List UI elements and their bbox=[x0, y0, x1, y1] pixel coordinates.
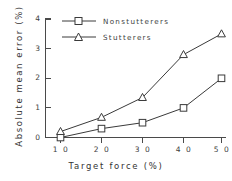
x-axis-title: Target force (%) bbox=[0, 161, 232, 171]
legend-item-nonstutterers: Nonstutterers bbox=[61, 13, 181, 29]
y-axis-title-wrapper: Absolute mean error (%) bbox=[12, 6, 26, 146]
data-point-stutterers-20 bbox=[98, 113, 106, 120]
data-point-nonstutterers-20 bbox=[98, 125, 105, 132]
x-tick-label-40: 4 0 bbox=[172, 146, 196, 154]
y-tick-label-1: 1 bbox=[26, 104, 40, 112]
x-tick-marks bbox=[61, 138, 222, 143]
legend-marker-square-icon bbox=[61, 15, 97, 27]
legend-label-stutterers: Stutterers bbox=[97, 33, 152, 42]
data-point-stutterers-50 bbox=[218, 30, 226, 37]
data-point-nonstutterers-10 bbox=[57, 134, 64, 141]
x-tick-label-30: 3 0 bbox=[131, 146, 155, 154]
y-axis-title: Absolute mean error (%) bbox=[14, 5, 24, 146]
legend-item-stutterers: Stutterers bbox=[61, 29, 181, 45]
x-tick-label-50: 5 0 bbox=[210, 146, 232, 154]
legend: Nonstutterers Stutterers bbox=[61, 13, 181, 45]
x-tick-label-20: 2 0 bbox=[90, 146, 114, 154]
data-point-nonstutterers-50 bbox=[218, 75, 225, 82]
legend-marker-triangle-icon bbox=[61, 31, 97, 43]
data-point-nonstutterers-40 bbox=[180, 105, 187, 112]
y-tick-label-3: 3 bbox=[26, 45, 40, 53]
data-point-nonstutterers-30 bbox=[139, 119, 146, 126]
series-line-nonstutterers bbox=[61, 78, 222, 137]
y-tick-label-0: 0 bbox=[26, 134, 40, 142]
data-point-stutterers-40 bbox=[180, 51, 188, 58]
series-layer bbox=[57, 30, 226, 141]
x-tick-label-10: 1 0 bbox=[49, 146, 73, 154]
y-tick-label-2: 2 bbox=[26, 74, 40, 82]
legend-label-nonstutterers: Nonstutterers bbox=[97, 17, 169, 26]
y-tick-marks bbox=[46, 19, 51, 138]
y-tick-label-4: 4 bbox=[26, 15, 40, 23]
figure: 0 1 2 3 4 1 0 2 0 3 0 4 0 5 0 Target for… bbox=[0, 0, 232, 181]
series-line-stutterers bbox=[61, 34, 222, 132]
